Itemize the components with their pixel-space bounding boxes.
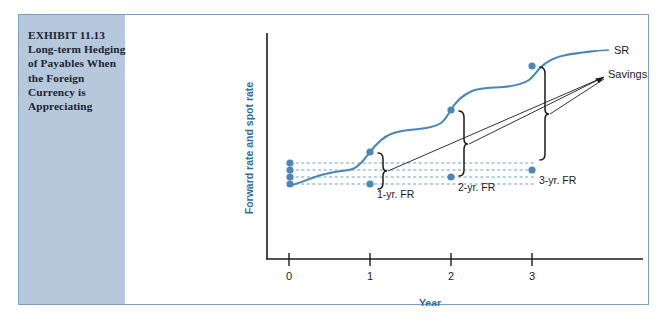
chart-area: 0 1 2 3 Year Forward rate and spot rate … [125, 15, 648, 304]
x-tick-label: 2 [448, 270, 454, 282]
spot-rate-marker [366, 148, 373, 155]
exhibit-caption-text: EXHIBIT 11.13 Long-term Hedging of Payab… [28, 28, 120, 113]
initial-rate-dot [286, 159, 293, 166]
brace-label-1yr: 1-yr. FR [377, 188, 415, 200]
sr-label: SR [614, 44, 629, 56]
y-axis-title: Forward rate and spot rate [243, 82, 255, 215]
spot-rate-marker [447, 106, 454, 113]
caption-line: the Foreign [28, 71, 120, 85]
savings-leader-line [388, 77, 604, 171]
caption-line: of Payables When [28, 56, 120, 70]
forward-rate-dot [447, 173, 454, 180]
spot-rate-curve [289, 51, 595, 186]
brace-3yr [540, 67, 549, 160]
brace-label-3yr: 3-yr. FR [539, 174, 577, 186]
sr-leader-line [595, 50, 609, 51]
forward-rate-dot [528, 166, 535, 173]
initial-rate-dot [286, 166, 293, 173]
exhibit-frame: EXHIBIT 11.13 Long-term Hedging of Payab… [18, 14, 649, 305]
x-axis-tick-labels: 0 1 2 3 [286, 270, 535, 282]
initial-rate-dots [286, 159, 293, 187]
exhibit-caption-panel: EXHIBIT 11.13 Long-term Hedging of Payab… [19, 15, 125, 304]
savings-annotation-label: Savings from hedging [608, 68, 650, 80]
brace-label-2yr: 2-yr. FR [458, 181, 496, 193]
caption-line: Currency is [28, 85, 120, 99]
spot-rate-marker [528, 62, 535, 69]
hedging-chart: 0 1 2 3 Year Forward rate and spot rate … [125, 15, 650, 306]
caption-line: EXHIBIT 11.13 [28, 28, 120, 42]
initial-rate-dot [286, 173, 293, 180]
initial-rate-dot [286, 180, 293, 187]
x-tick-label: 1 [367, 270, 373, 282]
forward-rate-dot [366, 180, 373, 187]
caption-line: Appreciating [28, 99, 120, 113]
brace-2yr [459, 111, 468, 176]
savings-leader-lines [388, 77, 604, 171]
caption-line: Long-term Hedging [28, 42, 120, 56]
x-axis-title: Year [419, 297, 441, 306]
spot-rate-markers [366, 62, 535, 155]
forward-rate-labels: 1-yr. FR 2-yr. FR 3-yr. FR [377, 174, 577, 200]
x-tick-label: 3 [529, 270, 535, 282]
chart-axes [266, 33, 643, 259]
savings-braces [378, 67, 549, 189]
x-tick-label: 0 [286, 270, 292, 282]
